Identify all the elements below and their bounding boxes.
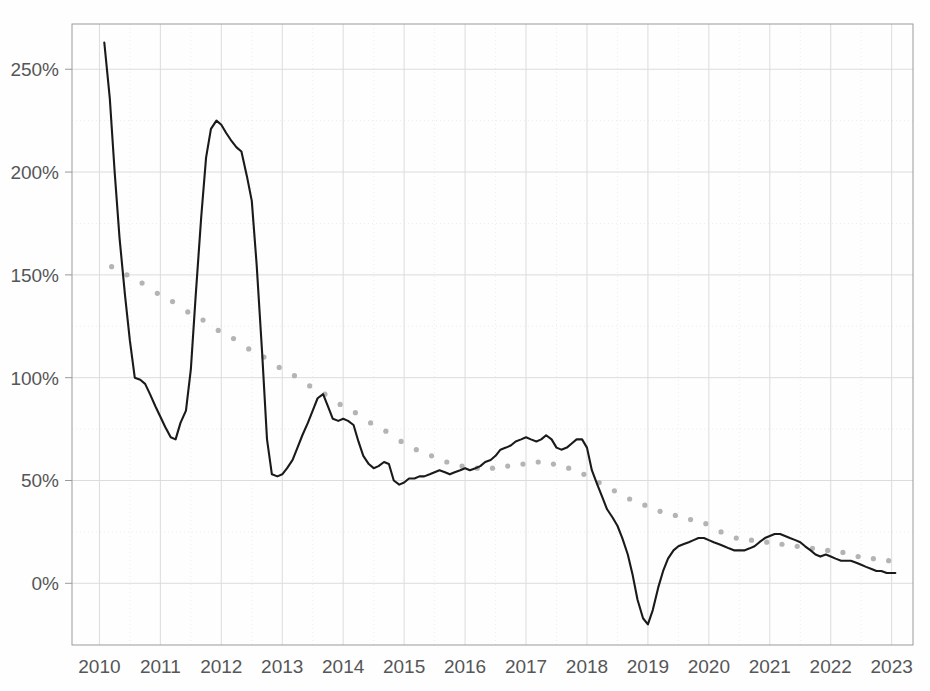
trend-dot: [109, 264, 114, 269]
trend-dot: [200, 318, 205, 323]
trend-dot: [383, 429, 388, 434]
x-axis-tick-label: 2010: [78, 656, 120, 677]
trend-dot: [185, 309, 190, 314]
trend-dot: [505, 464, 510, 469]
y-axis-tick-label: 250%: [10, 59, 59, 80]
series-trend-dotted: [109, 264, 891, 563]
trend-dot: [368, 420, 373, 425]
trend-dot: [642, 503, 647, 508]
series-observed-solid: [104, 43, 895, 625]
trend-dot: [612, 488, 617, 493]
x-axis-tick-label: 2019: [627, 656, 669, 677]
trend-dot: [551, 461, 556, 466]
x-axis-tick-label: 2015: [383, 656, 425, 677]
trend-dot: [566, 466, 571, 471]
trend-dot: [520, 461, 525, 466]
x-axis-tick-label: 2011: [140, 656, 181, 677]
trend-dot: [338, 402, 343, 407]
chart-canvas: 0%50%100%150%200%250% 201020112012201320…: [0, 0, 930, 691]
trend-dot: [231, 336, 236, 341]
y-axis-tick-label: 0%: [32, 573, 60, 594]
trend-dot: [703, 521, 708, 526]
trend-dot: [124, 272, 129, 277]
trend-dot: [414, 447, 419, 452]
trend-dot: [139, 280, 144, 285]
trend-dot: [688, 517, 693, 522]
x-axis-tick-label: 2021: [749, 656, 791, 677]
trend-dot: [627, 496, 632, 501]
x-axis-tick-label: 2018: [566, 656, 608, 677]
trend-dot: [398, 439, 403, 444]
line-chart: 0%50%100%150%200%250% 201020112012201320…: [0, 0, 930, 691]
x-axis-tick-label: 2020: [688, 656, 730, 677]
trend-dot: [795, 544, 800, 549]
trend-dot: [490, 466, 495, 471]
trend-dot: [856, 554, 861, 559]
x-axis-tick-label: 2013: [261, 656, 303, 677]
trend-dot: [657, 509, 662, 514]
trend-dot: [216, 328, 221, 333]
x-axis-tick-label: 2012: [200, 656, 242, 677]
trend-dot: [536, 459, 541, 464]
trend-dot: [871, 556, 876, 561]
x-axis-tick-label: 2023: [871, 656, 913, 677]
plot-frame-layer: [72, 24, 913, 645]
trend-dot: [429, 453, 434, 458]
x-axis-tick-label: 2014: [322, 656, 365, 677]
trend-dot: [673, 513, 678, 518]
trend-dot: [779, 542, 784, 547]
trend-dot: [581, 472, 586, 477]
trend-dot: [353, 410, 358, 415]
trend-dot: [444, 459, 449, 464]
y-axis-tick-labels: 0%50%100%150%200%250%: [10, 59, 59, 594]
trend-dot: [292, 373, 297, 378]
trend-dot: [749, 538, 754, 543]
series-line-observed: [104, 43, 895, 625]
y-axis-tick-label: 150%: [10, 265, 59, 286]
trend-dot: [840, 550, 845, 555]
x-axis-tick-labels: 2010201120122013201420152016201720182019…: [78, 656, 913, 677]
trend-dot: [734, 535, 739, 540]
y-axis-tick-label: 100%: [10, 368, 59, 389]
trend-dot: [764, 540, 769, 545]
plot-border: [72, 24, 913, 645]
x-axis-tick-label: 2022: [810, 656, 852, 677]
trend-dot: [886, 558, 891, 563]
grid-major-layer: [72, 24, 913, 645]
trend-dot: [825, 548, 830, 553]
x-axis-tick-label: 2016: [444, 656, 486, 677]
y-axis-tick-label: 200%: [10, 162, 59, 183]
trend-dot: [246, 346, 251, 351]
axis-ticks-layer: [65, 69, 72, 583]
trend-dot: [155, 291, 160, 296]
trend-dot: [718, 529, 723, 534]
x-axis-tick-label: 2017: [505, 656, 547, 677]
trend-dot: [277, 365, 282, 370]
y-axis-tick-label: 50%: [21, 470, 59, 491]
grid-minor-layer: [72, 24, 913, 645]
trend-dot: [307, 383, 312, 388]
trend-dot: [170, 299, 175, 304]
